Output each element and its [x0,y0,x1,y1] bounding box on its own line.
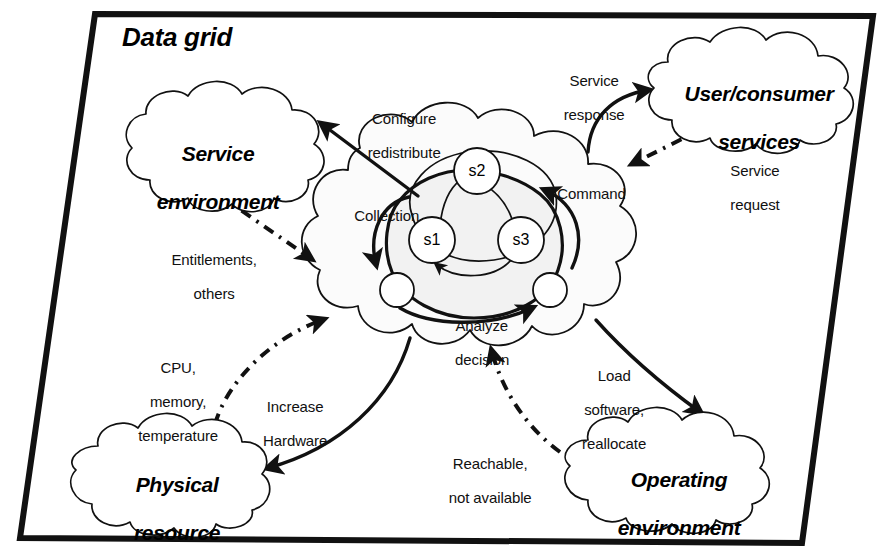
edge-label-line1: CPU, [160,359,195,376]
cloud-label-line1: Physical [136,473,219,496]
edge-label-analyze-decision: Analyze decision [439,300,510,385]
node-endpoint-right [533,273,567,307]
edge-label-line2: decision [455,351,509,368]
edge-label-line1: Reachable, [453,455,528,472]
edge-label-line1: Analyze [455,317,508,334]
node-label-s1: s1 [424,231,441,249]
edge-label-line1: Service [730,162,779,179]
edge-label-line2: memory, [150,393,207,410]
edge-label-line2: not available [449,489,532,506]
cloud-label-line2: environment [157,190,280,213]
edge-label-line2: software, [584,401,644,418]
cloud-label-line2: environment [618,516,741,539]
edge-label-line1: Load [598,367,631,384]
cloud-label-physical-resource: Physical resource [112,449,220,559]
edge-label-line3: temperature [138,427,218,444]
edge-label-line2: others [194,285,235,302]
cloud-label-line2: resource [134,521,220,544]
node-endpoint-left [380,273,414,307]
cloud-label-line1: Operating [631,468,727,491]
edge-label-load-software-reallocate: Load software, reallocate [566,350,646,469]
edge-label-line1: Entitlements, [171,251,256,268]
edge-label-entitlements-others: Entitlements, others [155,234,257,319]
edge-label-line2: response [564,106,625,123]
edge-label-line2: request [730,196,779,213]
diagram-canvas: Data grid Service environment User/consu… [0,0,885,559]
node-label-s2: s2 [469,162,486,180]
edge-label-reachable-not-available: Reachable, not available [432,438,531,523]
edge-label-line1: Collection [354,207,419,224]
node-label-s3: s3 [513,231,530,249]
cloud-label-line1: Service [182,142,255,165]
edge-label-configure-redistribute: Configure redistribute [351,93,440,178]
cloud-label-line1: User/consumer [685,82,834,105]
edge-label-line2: redistribute [368,144,441,161]
edge-label-service-response: Service response [547,55,624,140]
cloud-label-service-environment: Service environment [135,118,280,238]
edge-label-service-request: Service request [714,145,780,230]
edge-label-line1: Command [557,185,626,202]
edge-label-line2: Hardware [263,432,327,449]
page-title: Data grid [122,22,232,53]
edge-label-cpu-memory-temperature: CPU, memory, temperature [122,342,218,461]
edge-label-line3: reallocate [582,435,646,452]
edge-label-line1: Service [569,72,618,89]
edge-label-collection: Collection [338,190,419,241]
edge-label-increase-hardware: Increase Hardware [247,381,328,466]
edge-label-line1: Configure [372,110,436,127]
edge-label-command: Command [541,168,626,219]
edge-label-line1: Increase [267,398,324,415]
